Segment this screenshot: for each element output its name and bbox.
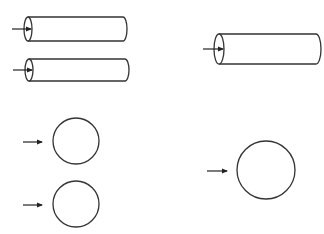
circle-outline bbox=[237, 141, 295, 199]
large-cylinder bbox=[203, 34, 321, 64]
cylinder-body bbox=[28, 17, 127, 41]
small-cylinder-2 bbox=[13, 59, 129, 81]
cylinders-group bbox=[12, 17, 321, 81]
small-cylinder-1 bbox=[12, 17, 127, 41]
diagram-canvas bbox=[0, 0, 324, 234]
diagram-svg bbox=[0, 0, 324, 234]
small-circle-1 bbox=[23, 118, 99, 164]
large-circle bbox=[207, 141, 295, 199]
circles-group bbox=[23, 118, 295, 227]
circle-outline bbox=[53, 118, 99, 164]
cylinder-body bbox=[29, 59, 129, 81]
circle-outline bbox=[53, 181, 99, 227]
cylinder-body bbox=[219, 34, 321, 64]
small-circle-2 bbox=[23, 181, 99, 227]
